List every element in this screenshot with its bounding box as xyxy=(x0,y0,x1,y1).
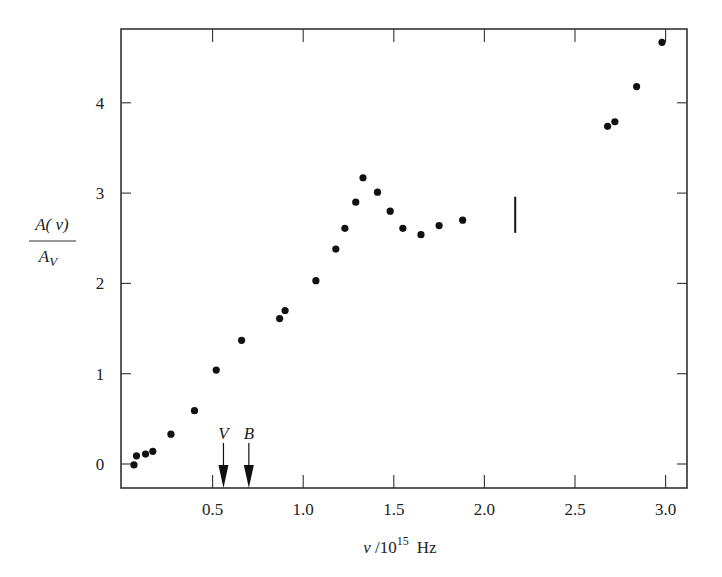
x-label-unit: Hz xyxy=(417,538,437,557)
data-point xyxy=(191,407,198,414)
data-point xyxy=(167,431,174,438)
y-tick-label: 4 xyxy=(96,94,105,113)
data-point xyxy=(611,118,618,125)
data-point xyxy=(459,217,466,224)
y-tick-label: 0 xyxy=(96,455,105,474)
data-points xyxy=(130,39,665,469)
x-axis-label: ν /1015Hz xyxy=(363,534,437,557)
x-tick-label: 3.0 xyxy=(655,500,676,519)
band-label: B xyxy=(244,424,255,443)
y-label-denominator: A xyxy=(38,247,50,266)
y-tick-label: 2 xyxy=(96,274,105,293)
data-point xyxy=(213,366,220,373)
x-axis-ticks: 0.51.01.52.02.53.0 xyxy=(202,29,676,519)
data-point xyxy=(133,452,140,459)
data-point xyxy=(633,83,640,90)
svg-text:A( ν): A( ν) xyxy=(34,215,69,234)
data-point xyxy=(332,245,339,252)
data-point xyxy=(238,337,245,344)
band-annotations: VB xyxy=(218,424,254,488)
arrow-down-icon xyxy=(218,465,228,488)
y-tick-label: 3 xyxy=(96,184,105,203)
y-label-denominator-sub: V xyxy=(49,254,59,269)
x-tick-label: 1.0 xyxy=(293,500,314,519)
data-point xyxy=(312,277,319,284)
data-point xyxy=(142,450,149,457)
x-tick-label: 2.5 xyxy=(564,500,585,519)
svg-text:ν /1015Hz: ν /1015Hz xyxy=(363,534,437,557)
data-point xyxy=(658,39,665,46)
x-tick-label: 1.5 xyxy=(383,500,404,519)
data-point xyxy=(436,222,443,229)
data-point xyxy=(130,461,137,468)
x-label-exp: 15 xyxy=(397,534,409,548)
y-axis-label: A( ν) AV xyxy=(29,215,76,269)
y-tick-label: 1 xyxy=(96,365,105,384)
x-tick-label: 0.5 xyxy=(202,500,223,519)
data-point xyxy=(387,208,394,215)
data-point xyxy=(374,189,381,196)
data-point xyxy=(149,448,156,455)
data-point xyxy=(604,123,611,130)
plot-frame xyxy=(121,29,687,488)
y-axis-ticks: 01234 xyxy=(96,94,687,474)
data-point xyxy=(281,307,288,314)
band-label: V xyxy=(218,424,231,443)
svg-text:AV: AV xyxy=(38,247,59,269)
data-point xyxy=(341,225,348,232)
data-point xyxy=(359,174,366,181)
y-label-numerator: A( ν) xyxy=(34,215,69,234)
data-point xyxy=(417,231,424,238)
data-point xyxy=(399,225,406,232)
x-label-sep: /10 xyxy=(371,538,397,557)
data-point xyxy=(276,315,283,322)
band-arrow-v: V xyxy=(218,424,231,488)
chart: 0.51.01.52.02.53.0 01234 VB A( ν) AV ν /… xyxy=(0,0,722,577)
data-point xyxy=(352,199,359,206)
x-tick-label: 2.0 xyxy=(474,500,495,519)
arrow-down-icon xyxy=(244,465,254,488)
band-arrow-b: B xyxy=(244,424,255,488)
